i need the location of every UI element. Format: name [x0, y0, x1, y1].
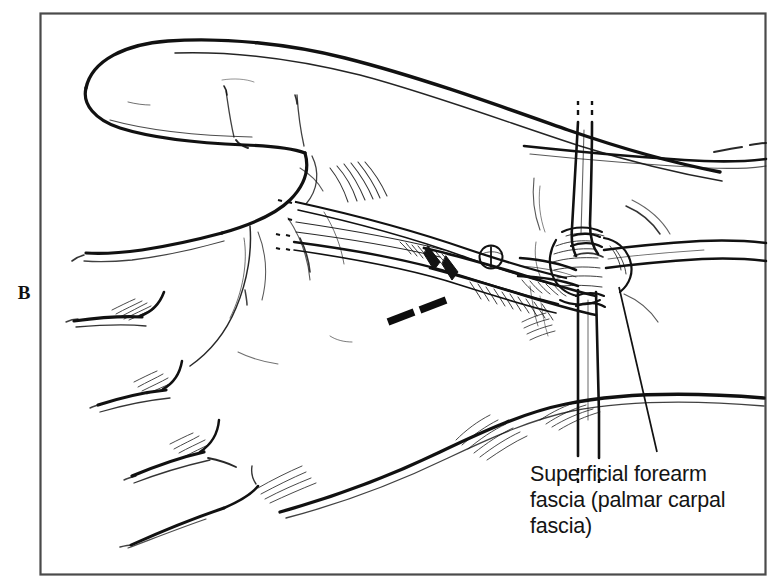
retractor-band-vertical-lower [576, 290, 605, 483]
illustration-canvas: Superficial forearm fascia (palmar carpa… [0, 0, 776, 588]
little-finger [120, 466, 316, 548]
middle-finger [90, 361, 182, 412]
annotation-line-1: Superficial forearm [530, 462, 707, 486]
thenar-eminence [330, 162, 387, 202]
annotation-line-3: fascia) [530, 514, 592, 538]
index-finger [66, 292, 164, 327]
incision-dashes [388, 300, 446, 322]
ring-finger [124, 420, 236, 483]
annotation-line-2: fascia (palmar carpal [530, 488, 725, 512]
figure-panel-b: B [0, 0, 776, 588]
dissection-field [518, 101, 766, 483]
hand-body [72, 212, 344, 366]
thumb [85, 40, 722, 233]
annotation-leader-line [619, 287, 657, 452]
annotation-superficial-forearm-fascia: Superficial forearm fascia (palmar carpa… [530, 462, 731, 538]
